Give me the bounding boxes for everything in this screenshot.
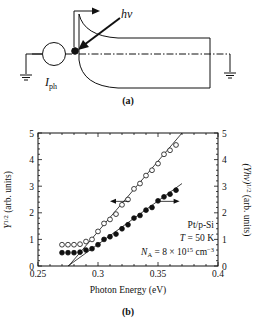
y-left-tick-label: 5 <box>29 129 34 139</box>
y-left-tick-label: 2 <box>29 208 34 218</box>
data-point-filled <box>126 222 131 227</box>
x-tick-label: 0.35 <box>150 269 167 279</box>
data-point-filled <box>162 194 167 199</box>
data-point-filled <box>108 234 113 239</box>
data-point-open <box>138 181 143 186</box>
data-point-open <box>162 152 167 157</box>
data-point-open <box>168 148 173 153</box>
ground-icon-left <box>20 75 32 80</box>
data-point-filled <box>132 216 137 221</box>
annotation-doping: NA = 8 × 1015 cm−3 <box>140 246 214 259</box>
data-point-filled <box>96 242 101 247</box>
data-point-open <box>96 229 101 234</box>
arrow-left-icon <box>110 199 116 204</box>
valence-band <box>79 60 210 88</box>
data-point-open <box>156 161 161 166</box>
y-right-tick-label: 2 <box>222 208 227 218</box>
data-point-filled <box>66 250 71 255</box>
data-point-open <box>78 242 83 247</box>
data-point-open <box>144 173 149 178</box>
data-point-filled <box>120 226 125 231</box>
data-point-filled <box>150 205 155 210</box>
data-point-open <box>150 168 155 173</box>
data-point-filled <box>78 250 83 255</box>
data-point-filled <box>90 246 95 251</box>
y-left-tick-label: 4 <box>29 155 34 165</box>
data-point-filled <box>144 208 149 213</box>
data-point-open <box>174 143 179 148</box>
y-right-tick-label: 5 <box>222 129 227 139</box>
metal-contact-icon <box>72 48 79 55</box>
data-point-open <box>60 242 65 247</box>
photon-label: hν <box>121 7 133 21</box>
data-point-filled <box>102 237 107 242</box>
y-right-tick-label: 3 <box>222 182 227 192</box>
y-right-tick-label: 1 <box>222 235 227 245</box>
data-point-filled <box>114 232 119 237</box>
data-point-open <box>90 237 95 242</box>
data-point-filled <box>60 250 65 255</box>
y-left-tick-label: 3 <box>29 182 34 192</box>
y-left-tick-label: 0 <box>29 262 34 272</box>
y-right-tick-label: 0 <box>222 262 227 272</box>
arrow-right-icon <box>92 8 100 15</box>
data-point-open <box>84 239 89 244</box>
ground-icon-right <box>224 73 236 78</box>
data-point-filled <box>138 213 143 218</box>
panel-b-label: (b) <box>122 306 134 318</box>
data-point-filled <box>156 198 161 203</box>
data-point-filled <box>72 250 77 255</box>
x-tick-label: 0.3 <box>92 269 104 279</box>
data-point-open <box>102 221 107 226</box>
x-axis-label: Photon Energy (eV) <box>90 285 166 296</box>
y-axis-right-label: (Yhν)1/2 (arb. units) <box>241 164 253 237</box>
current-label: Iph <box>44 75 57 91</box>
photon-ray <box>84 18 120 45</box>
data-point-open <box>66 242 71 247</box>
data-point-open <box>120 202 125 207</box>
arrow-right-icon <box>174 199 180 204</box>
data-point-filled <box>84 248 89 253</box>
data-point-open <box>132 186 137 191</box>
annotation-material: Pt/p-Si <box>188 220 215 230</box>
y-axis-left-label: Y1/2 (arb. units) <box>2 171 14 229</box>
y-right-tick-label: 4 <box>222 155 227 165</box>
data-point-open <box>108 217 113 222</box>
annotation-temperature: T = 50 K <box>180 233 214 243</box>
current-meter-icon <box>43 43 66 66</box>
data-point-filled <box>174 188 179 193</box>
panel-a-label: (a) <box>122 95 134 107</box>
data-point-open <box>114 212 119 217</box>
figure: hν Iph (a) 0.250.30.350.4012345012345 Ph… <box>0 0 256 322</box>
data-point-open <box>72 242 77 247</box>
y-left-tick-label: 1 <box>29 235 34 245</box>
data-point-filled <box>168 192 173 197</box>
